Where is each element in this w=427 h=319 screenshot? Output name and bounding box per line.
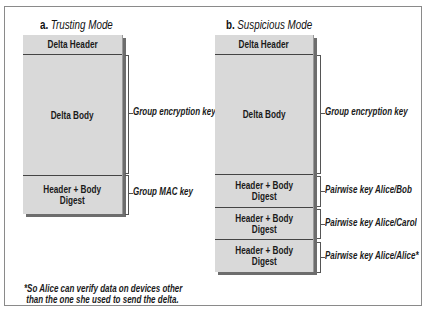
cell-label-line2: Digest	[251, 224, 276, 235]
panel-b-key-group-encryption: Group encryption key	[325, 106, 408, 117]
cell-label: Delta Header	[239, 39, 289, 50]
footnote-line2: than the one she used to send the delta.	[24, 294, 182, 305]
panel-b-delta-body: Delta Body	[215, 54, 313, 174]
cell-label-line1: Header + Body	[235, 180, 293, 191]
panel-a-digest: Header + Body Digest	[23, 175, 122, 214]
cell-label-line1: Header + Body	[235, 213, 293, 224]
cell-label: Delta Header	[47, 39, 97, 50]
cell-label: Delta Body	[51, 110, 94, 121]
panel-b-delta-header: Delta Header	[215, 35, 313, 54]
panel-a-delta-header: Delta Header	[23, 35, 122, 54]
footnote-line1: *So Alice can verify data on devices oth…	[24, 283, 182, 294]
panel-b-key-alice-alice: Pairwise key Alice/Alice*	[325, 250, 419, 261]
panel-a-body-bracket	[125, 55, 129, 174]
panel-a-key-group-encryption: Group encryption key	[133, 106, 216, 117]
panel-a-delta-body: Delta Body	[23, 54, 122, 175]
footnote: *So Alice can verify data on devices oth…	[24, 283, 182, 305]
panel-a-key-group-mac: Group MAC key	[133, 186, 193, 197]
cell-label-line2: Digest	[251, 256, 276, 267]
panel-b-key-alice-carol: Pairwise key Alice/Carol	[325, 217, 417, 228]
cell-label-line2: Digest	[251, 191, 276, 202]
panel-b-title: b.Suspicious Mode	[226, 18, 312, 32]
panel-a-letter: a.	[40, 18, 48, 32]
panel-b-body-bracket	[317, 55, 321, 174]
panel-b-digest-alice: Header + Body Digest	[215, 239, 313, 272]
panel-a-title: a.Trusting Mode	[40, 18, 113, 32]
panel-b-key-alice-bob: Pairwise key Alice/Bob	[325, 184, 412, 195]
panel-a-title-text: Trusting Mode	[51, 18, 113, 32]
cell-label-line2: Digest	[60, 195, 85, 206]
cell-label-line1: Header + Body	[235, 245, 293, 256]
panel-a-digest-bracket	[125, 175, 129, 215]
panel-b-digest-bob: Header + Body Digest	[215, 174, 313, 207]
cell-label: Delta Body	[243, 109, 286, 120]
panel-b-digest-carol: Header + Body Digest	[215, 207, 313, 239]
panel-b-title-text: Suspicious Mode	[237, 18, 312, 32]
panel-b-delta-stack: Delta Header Delta Body Header + Body Di…	[215, 35, 314, 272]
panel-b-letter: b.	[226, 18, 235, 32]
cell-label-line1: Header + Body	[44, 184, 102, 195]
panel-a-delta-stack: Delta Header Delta Body Header + Body Di…	[23, 35, 123, 214]
